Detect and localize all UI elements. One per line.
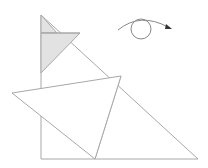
rotate-clockwise-arrow-icon	[118, 19, 172, 39]
shaded-top-triangle	[41, 15, 57, 33]
rotation-arc	[118, 20, 168, 30]
diagram-svg	[0, 0, 208, 168]
diagram-canvas	[0, 0, 208, 168]
arrowhead	[165, 24, 172, 29]
